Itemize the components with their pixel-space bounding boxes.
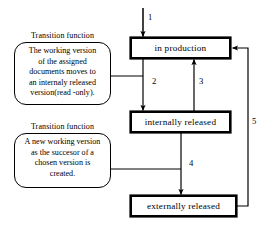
state-in-production[interactable]: in production — [131, 38, 230, 58]
state-transition-diagram: in production internally released extern… — [0, 0, 270, 232]
callout-line: chosen version is — [20, 158, 105, 169]
callout-line: an internaly released — [20, 78, 105, 89]
transition-label-4: 4 — [189, 158, 193, 168]
callout-title: Transition function — [14, 122, 111, 131]
state-internally-released[interactable]: internally released — [131, 112, 230, 132]
state-label: in production — [155, 43, 207, 53]
transition-label-1: 1 — [148, 12, 152, 22]
callout-internal-release: Transition function The working version … — [14, 31, 111, 105]
callout-line: as the succesor of a — [20, 148, 105, 159]
callout-line: version(read -only). — [20, 88, 105, 99]
transition-label-3: 3 — [199, 76, 203, 86]
state-label: externally released — [147, 201, 220, 211]
callout-title: Transition function — [14, 31, 111, 40]
callout-line: documents moves to — [20, 67, 105, 78]
transition-label-2: 2 — [152, 76, 156, 86]
transition-arrow-5 — [233, 48, 249, 206]
transition-label-5: 5 — [252, 116, 256, 126]
callout-successor-version: Transition function A new working versio… — [14, 122, 111, 188]
state-externally-released[interactable]: externally released — [131, 196, 236, 216]
callout-line: The working version — [20, 46, 105, 57]
callout-line: A new working version — [20, 137, 105, 148]
state-label: internally released — [145, 117, 216, 127]
callout-body: A new working version as the succesor of… — [14, 133, 111, 188]
callout-line: created. — [20, 169, 105, 180]
callout-line: of the assigned — [20, 57, 105, 68]
callout-body: The working version of the assigned docu… — [14, 42, 111, 105]
